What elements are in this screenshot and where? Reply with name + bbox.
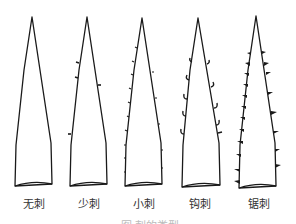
label-small-spines: 小刺	[133, 195, 155, 211]
label-no-spine: 无刺	[23, 195, 45, 211]
spine-types-diagram	[0, 0, 296, 224]
shape-few-spines	[68, 17, 107, 186]
serrated-teeth	[234, 51, 281, 184]
label-few-spines: 少刺	[78, 195, 100, 211]
label-hooked-spines: 钩刺	[189, 195, 211, 211]
shape-no-spine	[15, 17, 52, 186]
shape-serrated-spines	[239, 16, 276, 188]
shape-hooked-spines	[181, 18, 222, 187]
label-serrated-spines: 锯刺	[248, 195, 270, 211]
shape-small-spines	[124, 18, 163, 186]
figure-caption: 图 刺的类型	[121, 217, 180, 224]
